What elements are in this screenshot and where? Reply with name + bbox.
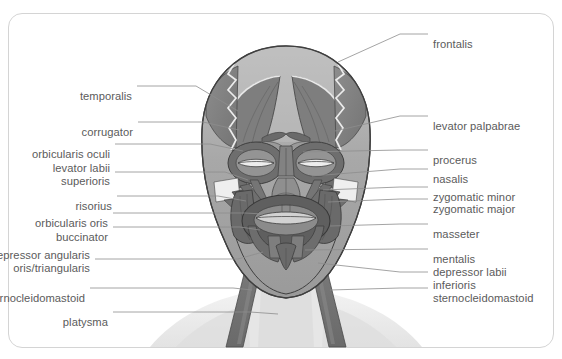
label-text: orbicularis oris xyxy=(35,217,108,229)
label-text: zygomatic minor xyxy=(433,191,515,203)
label-text: levator palpabrae xyxy=(433,120,520,132)
label-text: orbicularis oculi xyxy=(32,148,110,160)
label-text: masseter xyxy=(433,228,479,240)
label-text: depressor labii xyxy=(433,266,507,278)
label-temporalis: temporalis xyxy=(80,90,132,103)
label-text: sternocleidomastoid xyxy=(433,292,533,304)
label-orbicularis-oris: orbicularis oris xyxy=(35,217,108,230)
label-risorius: risorius xyxy=(76,200,112,213)
label-frontalis: frontalis xyxy=(433,38,473,51)
label-levator-palpabrae: levator palpabrae xyxy=(433,120,520,133)
label-mentalis: mentalis xyxy=(433,253,475,266)
label-nasalis: nasalis xyxy=(433,173,468,186)
label-text: zygomatic major xyxy=(433,203,515,215)
label-text: depressor angularis xyxy=(0,249,90,261)
label-text: nasalis xyxy=(433,173,468,185)
label-text: platysma xyxy=(63,316,108,328)
figure-root: temporaliscorrugatororbicularis oculilev… xyxy=(0,0,562,359)
label-zygomatic-major: zygomatic major xyxy=(433,203,515,216)
label-text: mentalis xyxy=(433,253,475,265)
label-sternocleidomastoid-left: sternocleidomastoid xyxy=(0,292,85,305)
label-procerus: procerus xyxy=(433,154,477,167)
label-levator-labii-superioris: levator labiisuperioris xyxy=(53,162,110,187)
label-depressor-anguli-oris: depressor angularisoris/triangularis xyxy=(0,249,90,274)
label-text-line2: oris/triangularis xyxy=(0,262,90,275)
label-masseter: masseter xyxy=(433,228,479,241)
label-text: levator labii xyxy=(53,162,110,174)
label-corrugator: corrugator xyxy=(82,126,134,139)
label-text: temporalis xyxy=(80,90,132,102)
label-text: buccinator xyxy=(56,231,108,243)
label-text: corrugator xyxy=(82,126,134,138)
label-text-line2: superioris xyxy=(53,175,110,188)
label-text-line2: inferioris xyxy=(433,279,507,292)
label-text: risorius xyxy=(76,200,112,212)
label-sternocleidomastoid-right: sternocleidomastoid xyxy=(433,292,533,305)
label-text: sternocleidomastoid xyxy=(0,292,85,304)
label-text: procerus xyxy=(433,154,477,166)
label-buccinator: buccinator xyxy=(56,231,108,244)
label-text: frontalis xyxy=(433,38,473,50)
label-depressor-labii-inferioris: depressor labiiinferioris xyxy=(433,266,507,291)
label-orbicularis-oculi: orbicularis oculi xyxy=(32,148,110,161)
label-platysma: platysma xyxy=(63,316,108,329)
label-zygomatic-minor: zygomatic minor xyxy=(433,191,515,204)
